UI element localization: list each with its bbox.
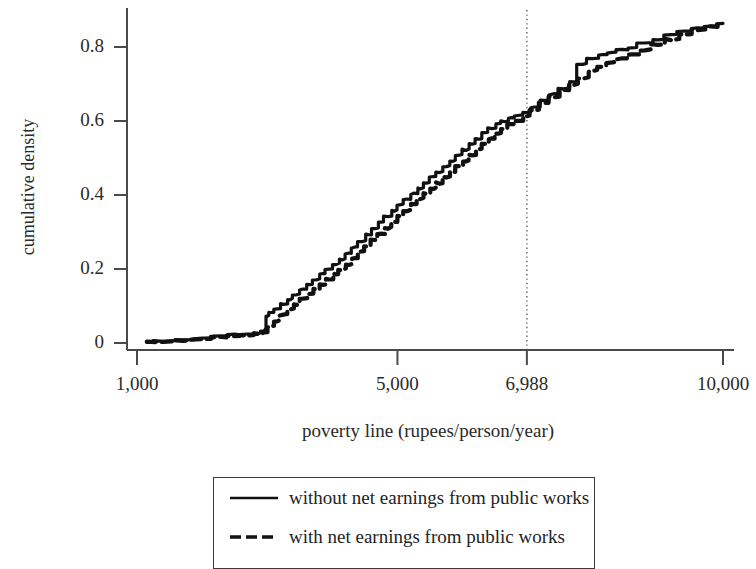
series-line-with-net-earnings: [147, 24, 723, 343]
y-tick-label: 0.4: [40, 183, 104, 205]
x-tick-label: 1,000: [77, 373, 197, 395]
data-series: [147, 23, 723, 342]
chart-legend: without net earnings from public works w…: [213, 477, 595, 569]
x-tick-label: 10,000: [663, 373, 756, 395]
dashed-line-swatch-icon: [228, 530, 280, 544]
solid-line-swatch-icon: [228, 491, 280, 505]
x-tick-label: 6,988: [467, 373, 587, 395]
y-tick-label: 0.8: [40, 35, 104, 57]
x-tick-label: 5,000: [337, 373, 457, 395]
legend-item-with-net-earnings: with net earnings from public works: [214, 517, 594, 556]
y-axis-title: cumulative density: [18, 176, 39, 198]
legend-label-without-net-earnings: without net earnings from public works: [289, 487, 589, 509]
legend-label-with-net-earnings: with net earnings from public works: [289, 526, 565, 548]
y-tick-label: 0: [40, 331, 104, 353]
y-axis-title-text: cumulative density: [18, 87, 39, 287]
x-axis-title: poverty line (rupees/person/year): [128, 420, 728, 442]
x-axis-ticks: [137, 350, 723, 365]
y-axis-ticks: [114, 47, 127, 343]
y-tick-label: 0.6: [40, 109, 104, 131]
legend-item-without-net-earnings: without net earnings from public works: [214, 478, 594, 517]
y-tick-label: 0.2: [40, 257, 104, 279]
